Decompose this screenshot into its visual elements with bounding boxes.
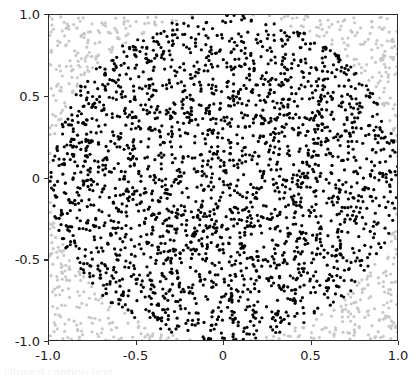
y-tick-mark-2 [44,178,48,179]
scatter-plot-figure: 1.0 0.5 0 -0.5 -1.0 -1.0 -0.5 0 0.5 1.0 … [0,0,419,375]
x-tick-label-0.5: 0.5 [300,349,321,362]
plot-area [48,14,398,341]
y-tick-label-0: 0 [32,171,40,184]
clipped-caption: clipped caption text [4,367,219,375]
x-tick-label-1.0: 1.0 [388,349,409,362]
x-tick-label--0.5: -0.5 [123,349,148,362]
y-tick-mark-1 [44,96,48,97]
x-tick-mark-2 [223,341,224,345]
y-tick-label--1.0: -1.0 [15,335,40,348]
x-tick-mark-3 [311,341,312,345]
scatter-points-canvas [49,15,398,341]
y-tick-label-1.0: 1.0 [19,8,40,21]
y-tick-mark-3 [44,259,48,260]
x-tick-label--1.0: -1.0 [35,349,60,362]
y-tick-label--0.5: -0.5 [15,253,40,266]
x-tick-label-0: 0 [219,349,227,362]
x-tick-mark-1 [136,341,137,345]
y-tick-label-0.5: 0.5 [19,89,40,102]
x-tick-mark-4 [398,341,399,345]
x-tick-mark-0 [48,341,49,345]
y-tick-mark-0 [44,14,48,15]
